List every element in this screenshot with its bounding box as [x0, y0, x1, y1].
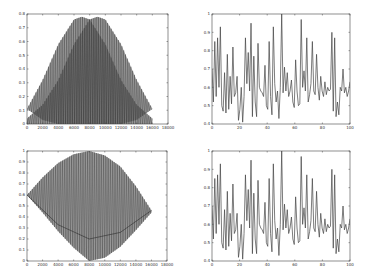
- x-tick-label: 80: [320, 125, 326, 130]
- x-tick-label: 18000: [162, 125, 175, 130]
- y-tick-label: 0.8: [19, 170, 26, 175]
- x-tick-label: 4000: [53, 262, 64, 267]
- y-tick-label: 0.6: [19, 39, 26, 44]
- x-tick-label: 14000: [130, 125, 143, 130]
- subplot-bottom-right: 0204060801000.40.50.60.70.80.91: [204, 148, 355, 267]
- x-tick-label: 60: [292, 262, 298, 267]
- y-tick-label: 0.5: [19, 53, 26, 58]
- x-tick-label: 20: [237, 262, 243, 267]
- x-tick-label: 12000: [115, 125, 128, 130]
- x-tick-label: 16000: [146, 125, 159, 130]
- x-tick-label: 10000: [99, 125, 112, 130]
- y-tick-label: 0.3: [19, 225, 26, 230]
- y-tick-label: 0.8: [204, 185, 211, 190]
- x-tick-label: 16000: [145, 262, 158, 267]
- y-tick-label: 0.7: [19, 181, 26, 186]
- x-tick-label: 18000: [161, 262, 174, 267]
- y-tick-label: 0.8: [19, 11, 26, 16]
- figure: 0200040006000800010000120001400016000180…: [0, 0, 369, 277]
- signal-line: [212, 14, 350, 122]
- x-tick-label: 6000: [69, 262, 80, 267]
- y-tick-label: 0.1: [19, 247, 26, 252]
- x-tick-label: 40: [265, 262, 271, 267]
- y-tick-label: 0.1: [19, 108, 26, 113]
- x-tick-label: 8000: [85, 125, 96, 130]
- y-tick-label: 0.5: [204, 103, 211, 108]
- subplot-top-left: 0200040006000800010000120001400016000180…: [19, 11, 175, 130]
- x-tick-label: 0: [211, 125, 214, 130]
- plot-area: [27, 151, 151, 261]
- x-tick-label: 80: [320, 262, 326, 267]
- x-tick-label: 2000: [38, 125, 49, 130]
- signal-line: [212, 151, 350, 259]
- y-tick-label: 0.3: [19, 80, 26, 85]
- y-tick-label: 0.2: [19, 236, 26, 241]
- x-tick-label: 14000: [130, 262, 143, 267]
- y-tick-label: 1: [207, 148, 210, 153]
- x-tick-label: 0: [26, 262, 29, 267]
- y-tick-label: 0.9: [19, 159, 26, 164]
- x-tick-label: 4000: [53, 125, 64, 130]
- x-tick-label: 20: [237, 125, 243, 130]
- subplot-bottom-left: 0200040006000800010000120001400016000180…: [19, 148, 174, 267]
- y-tick-label: 0.4: [204, 121, 211, 126]
- x-tick-label: 60: [292, 125, 298, 130]
- plot-area: [27, 17, 152, 124]
- x-tick-label: 2000: [37, 262, 48, 267]
- y-tick-label: 1: [22, 148, 25, 153]
- y-tick-label: 1: [207, 11, 210, 16]
- plot-area: [212, 151, 350, 259]
- x-tick-label: 40: [265, 125, 271, 130]
- x-tick-label: 10000: [98, 262, 111, 267]
- y-tick-label: 0.4: [19, 214, 26, 219]
- y-tick-label: 0.2: [19, 94, 26, 99]
- y-tick-label: 0.6: [19, 192, 26, 197]
- y-tick-label: 0.6: [204, 222, 211, 227]
- y-tick-label: 0.5: [19, 203, 26, 208]
- y-tick-label: 0.5: [204, 240, 211, 245]
- y-tick-label: 0.4: [204, 258, 211, 263]
- y-tick-label: 0.8: [204, 48, 211, 53]
- x-tick-label: 6000: [69, 125, 80, 130]
- y-tick-label: 0.7: [19, 25, 26, 30]
- plot-area: [212, 14, 350, 122]
- x-tick-label: 100: [346, 262, 354, 267]
- x-tick-label: 0: [26, 125, 29, 130]
- x-tick-label: 12000: [114, 262, 127, 267]
- y-tick-label: 0.7: [204, 66, 211, 71]
- subplot-top-right: 0204060801000.40.50.60.70.80.91: [204, 11, 355, 130]
- y-tick-label: 0.9: [204, 30, 211, 35]
- x-tick-label: 8000: [84, 262, 95, 267]
- y-tick-label: 0.7: [204, 203, 211, 208]
- x-tick-label: 100: [346, 125, 354, 130]
- y-tick-label: 0.6: [204, 85, 211, 90]
- x-tick-label: 0: [211, 262, 214, 267]
- y-tick-label: 0.4: [19, 66, 26, 71]
- y-tick-label: 0.9: [204, 167, 211, 172]
